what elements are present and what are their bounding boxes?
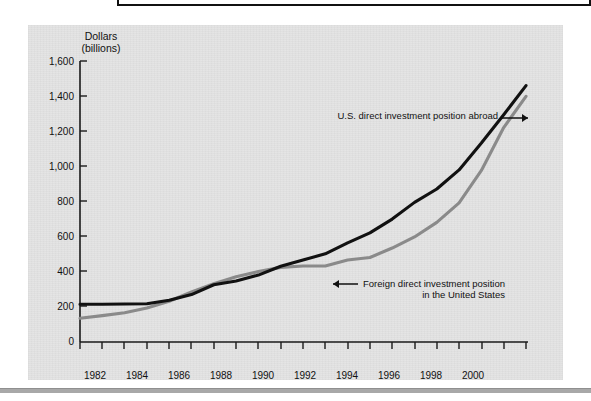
chart-plot-area xyxy=(28,25,563,380)
y-tick-marks xyxy=(80,61,87,306)
series-line-foreign-direct-investment-us xyxy=(80,96,526,318)
page-bottom-rule xyxy=(0,388,591,393)
figure-page: Dollars (billions) 1,600 1,400 1,200 1,0… xyxy=(0,0,591,401)
x-tick-marks xyxy=(80,342,526,349)
chart-figure-panel: Dollars (billions) 1,600 1,400 1,200 1,0… xyxy=(28,25,563,380)
annotation-arrow-foreign-us xyxy=(333,280,358,288)
series-line-us-direct-investment-abroad xyxy=(80,86,526,305)
document-box-outline xyxy=(117,0,591,6)
